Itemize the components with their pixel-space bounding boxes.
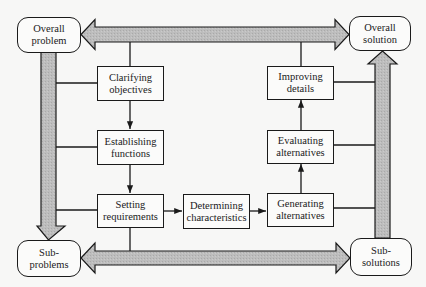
node-sub-solutions-line2: solutions [362,257,400,269]
node-establishing-functions: Establishing functions [97,130,164,165]
wide-double-arrow-top [81,20,349,50]
node-determining-characteristics-line1: Determining [190,200,243,212]
node-overall-problem: Overall problem [17,17,81,53]
node-overall-problem-line1: Overall [33,23,65,35]
node-improving-details-line2: details [287,83,314,95]
node-evaluating-alternatives-line2: alternatives [276,147,324,159]
node-sub-problems: Sub- problems [17,240,81,277]
node-sub-problems-line1: Sub- [39,247,59,259]
node-clarifying-objectives-line1: Clarifying [109,72,152,84]
node-evaluating-alternatives-line1: Evaluating [278,135,324,147]
node-generating-alternatives-line1: Generating [277,198,324,210]
node-overall-problem-line2: problem [32,35,67,47]
node-determining-characteristics: Determining characteristics [183,194,250,229]
node-setting-requirements: Setting requirements [97,194,164,228]
wide-arrow-left-down [37,52,65,240]
node-sub-problems-line2: problems [29,259,68,271]
node-sub-solutions-line1: Sub- [371,245,391,257]
node-sub-solutions: Sub- solutions [350,238,412,276]
node-establishing-functions-line2: functions [111,148,150,160]
node-overall-solution-line1: Overall [364,22,396,34]
node-improving-details-line1: Improving [278,71,322,83]
node-generating-alternatives-line2: alternatives [276,210,324,222]
node-overall-solution: Overall solution [349,16,411,51]
node-clarifying-objectives: Clarifying objectives [97,66,164,101]
node-improving-details: Improving details [267,66,334,100]
node-overall-solution-line2: solution [363,34,397,46]
node-setting-requirements-line2: requirements [103,211,158,223]
node-clarifying-objectives-line2: objectives [109,84,152,96]
node-evaluating-alternatives: Evaluating alternatives [267,130,334,164]
node-determining-characteristics-line2: characteristics [186,212,246,224]
wide-double-arrow-bottom [81,243,350,273]
node-establishing-functions-line1: Establishing [105,136,157,148]
node-setting-requirements-line1: Setting [116,199,146,211]
node-generating-alternatives: Generating alternatives [267,193,334,227]
